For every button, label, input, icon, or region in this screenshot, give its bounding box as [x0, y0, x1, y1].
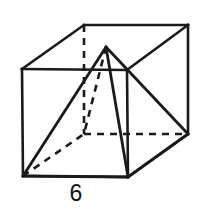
geometry-figure: 6 — [0, 0, 204, 210]
cube-edge-top-right-receding — [127, 25, 188, 70]
pyramid-edge-apex-to-front-bottom-left — [23, 47, 106, 176]
figure-caption: 6 — [0, 180, 152, 206]
cube-edge-front-left — [22, 69, 23, 176]
pyramid-hidden-edge-apex-to-back-left — [84, 47, 106, 134]
cube-edge-front-right — [127, 70, 128, 177]
pyramid-hidden-edge-base-diagonal — [23, 134, 84, 176]
pyramid-base-edge-front — [23, 176, 128, 177]
cube-edge-top-left-receding — [22, 25, 84, 69]
pyramid-base-edge-right — [128, 134, 188, 177]
cube-pyramid-drawing — [0, 0, 204, 210]
